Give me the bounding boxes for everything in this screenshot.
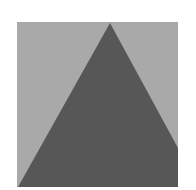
figure-canvas [0, 0, 196, 190]
